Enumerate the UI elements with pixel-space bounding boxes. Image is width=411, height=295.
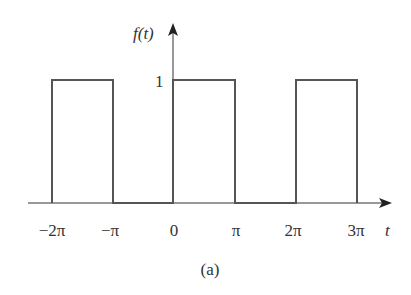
square-wave-line — [52, 80, 357, 203]
x-tick-pi: π — [232, 221, 241, 240]
x-tick-2pi: 2π — [284, 221, 302, 240]
x-axis-label: t — [385, 221, 391, 240]
y-axis-label: f(t) — [133, 24, 154, 43]
y-tick-1: 1 — [155, 72, 164, 91]
x-tick-3pi: 3π — [347, 221, 365, 240]
x-tick-neg-pi: −π — [101, 221, 120, 240]
figure-caption: (a) — [201, 260, 220, 279]
x-tick-0: 0 — [170, 221, 179, 240]
x-tick-neg-2pi: −2π — [39, 221, 66, 240]
square-wave-figure: f(t) 1 −2π −π 0 π 2π 3π t (a) — [0, 0, 411, 295]
